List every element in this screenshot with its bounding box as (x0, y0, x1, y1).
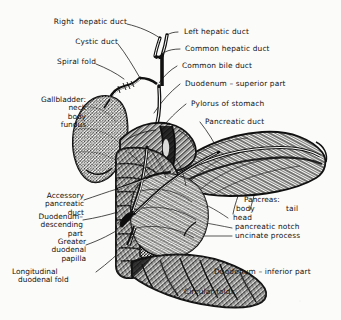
label-pylorus-of-stomach: Pylorus of stomach (191, 100, 264, 108)
label-greater-duodenal-papilla-group: Greater duodenal papilla (6, 238, 86, 263)
label-right-hepatic-duct: Right hepatic duct (10, 18, 127, 26)
anatomical-figure-page: Right hepatic duct Cystic duct Spiral fo… (0, 0, 341, 320)
label-uncinate-process: uncinate process (235, 232, 300, 240)
label-duodenum-inferior-part: Duodenum – inferior part (214, 268, 311, 276)
label-spiral-fold: Spiral fold (30, 58, 96, 66)
label-common-bile-duct: Common bile duct (182, 62, 252, 70)
label-left-hepatic-duct: Left hepatic duct (184, 28, 249, 36)
label-duodenum-superior-part: Duodenum – superior part (185, 80, 286, 88)
label-gallbladder-fundus: fundus (8, 121, 86, 129)
label-longitudinal-line-2: duodenal fold (12, 276, 98, 284)
label-circular-folds: Circular folds (184, 288, 235, 296)
label-duodenum-descending-group: Duodenum– descending part (4, 213, 83, 238)
label-longitudinal-duodenal-fold-group: Longitudinal duodenal fold (12, 268, 98, 285)
label-pancreatic-duct: Pancreatic duct (205, 118, 264, 126)
label-papilla-line-3: papilla (6, 255, 86, 263)
label-gallbladder-group: Gallbladder: neck body fundus (8, 96, 86, 130)
label-common-hepatic-duct: Common hepatic duct (185, 45, 270, 53)
label-cystic-duct: Cystic duct (30, 38, 118, 46)
label-pancreas-tail: tail (286, 205, 298, 213)
